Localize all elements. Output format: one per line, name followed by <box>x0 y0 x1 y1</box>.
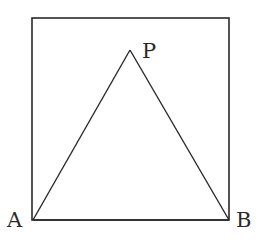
vertex-label-a: A <box>6 208 23 232</box>
square-outline <box>32 18 229 220</box>
vertex-label-b: B <box>236 208 251 232</box>
segment-pb <box>130 50 229 220</box>
vertex-label-p: P <box>142 39 156 63</box>
segment-ap <box>33 50 130 220</box>
geometry-diagram: A B P <box>0 0 260 244</box>
